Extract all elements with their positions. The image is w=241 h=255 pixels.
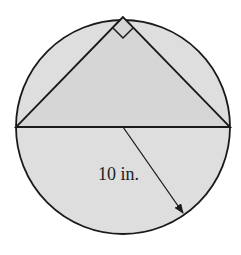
circle-triangle-diagram: 10 in. — [0, 0, 241, 255]
radius-label: 10 in. — [98, 164, 139, 184]
